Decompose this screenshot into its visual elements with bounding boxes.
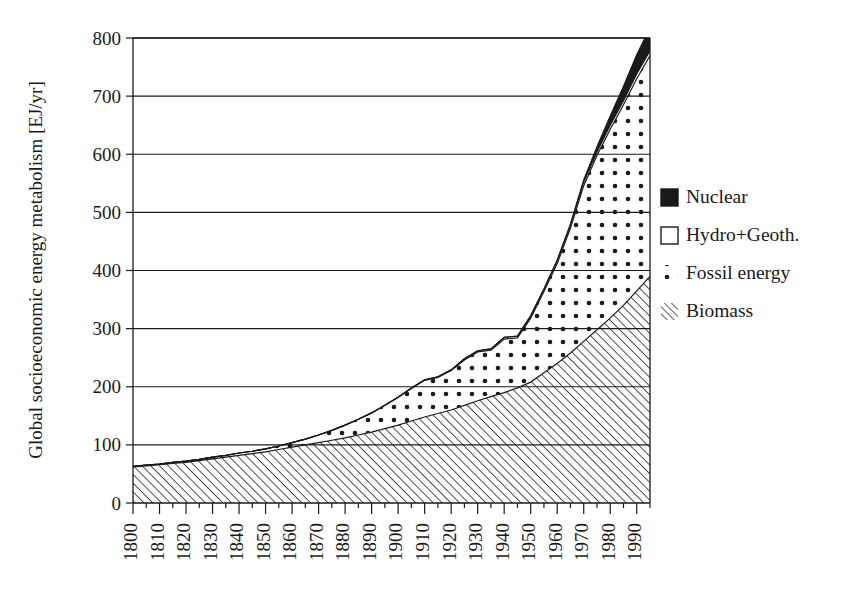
y-tick-label-100: 100 xyxy=(93,434,122,455)
y-tick-label-700: 700 xyxy=(93,86,122,107)
legend-label-nuclear: Nuclear xyxy=(686,186,748,207)
x-tick-label-1860: 1860 xyxy=(279,523,300,561)
stacked-area-chart: 0100200300400500600700800 18001810182018… xyxy=(0,0,845,594)
y-tick-label-300: 300 xyxy=(93,318,122,339)
x-tick-label-1820: 1820 xyxy=(173,523,194,561)
x-tick-label-1960: 1960 xyxy=(545,523,566,561)
y-tick-label-800: 800 xyxy=(93,28,122,49)
y-tick-label-200: 200 xyxy=(93,376,122,397)
x-tick-label-1930: 1930 xyxy=(465,523,486,561)
x-tick-label-1800: 1800 xyxy=(120,523,141,561)
legend-label-fossil-energy: Fossil energy xyxy=(686,262,790,283)
y-tick-label-600: 600 xyxy=(93,144,122,165)
legend-label-hydro-geoth: Hydro+Geoth. xyxy=(686,224,799,245)
x-tick-label-1850: 1850 xyxy=(253,523,274,561)
legend-swatch-nuclear xyxy=(661,189,678,206)
x-tick-label-1880: 1880 xyxy=(332,523,353,561)
x-tick-label-1920: 1920 xyxy=(439,523,460,561)
legend-swatch-biomass xyxy=(661,303,678,320)
legend-swatch-hydro-geoth xyxy=(661,227,678,244)
y-axis-title: Global socioeconomic energy metabolism [… xyxy=(25,81,46,458)
x-tick-label-1970: 1970 xyxy=(571,523,592,561)
legend-label-biomass: Biomass xyxy=(686,300,753,321)
y-tick-label-400: 400 xyxy=(93,260,122,281)
x-tick-label-1840: 1840 xyxy=(226,523,247,561)
x-tick-label-1910: 1910 xyxy=(412,523,433,561)
x-tick-label-1890: 1890 xyxy=(359,523,380,561)
x-tick-label-1940: 1940 xyxy=(492,523,513,561)
y-tick-label-500: 500 xyxy=(93,202,122,223)
legend-swatch-fossil-energy xyxy=(661,265,678,282)
chart-figure: 0100200300400500600700800 18001810182018… xyxy=(0,0,845,594)
y-tick-label-0: 0 xyxy=(112,493,122,514)
x-tick-label-1810: 1810 xyxy=(147,523,168,561)
x-tick-label-1830: 1830 xyxy=(200,523,221,561)
x-tick-label-1870: 1870 xyxy=(306,523,327,561)
x-tick-label-1900: 1900 xyxy=(385,523,406,561)
x-tick-label-1980: 1980 xyxy=(598,523,619,561)
x-tick-label-1990: 1990 xyxy=(624,523,645,561)
x-tick-label-1950: 1950 xyxy=(518,523,539,561)
